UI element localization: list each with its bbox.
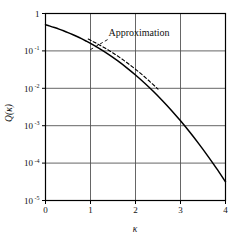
y-tick-label-text: 1 — [35, 9, 40, 19]
x-tick-label: 2 — [133, 205, 138, 215]
y-tick-label-text: 10 — [24, 84, 34, 94]
y-tick-label-text: 10 — [24, 158, 34, 168]
semilog-plot: 01234 110-110-210-310-410-5 Approximatio… — [0, 0, 244, 241]
y-tick-label-exponent: -2 — [35, 83, 40, 89]
x-tick-label: 3 — [178, 205, 183, 215]
x-tick-label: 0 — [43, 205, 48, 215]
y-tick-label-exponent: -5 — [35, 195, 40, 201]
chart-figure: 01234 110-110-210-310-410-5 Approximatio… — [0, 0, 244, 241]
y-axis-title: Q(κ) — [4, 104, 15, 122]
approximation-label: Approximation — [109, 27, 170, 38]
y-tick-label-text: 10 — [24, 196, 34, 206]
y-tick-label-exponent: -3 — [35, 120, 40, 126]
x-tick-label: 4 — [223, 205, 228, 215]
x-tick-label: 1 — [88, 205, 93, 215]
x-axis-title: κ — [133, 224, 138, 234]
y-tick-label-exponent: -4 — [35, 158, 40, 164]
y-tick-label-text: 10 — [24, 121, 34, 131]
y-tick-label-text: 10 — [24, 46, 34, 56]
y-tick-label: 1 — [35, 9, 40, 19]
y-tick-label-exponent: -1 — [35, 45, 40, 51]
